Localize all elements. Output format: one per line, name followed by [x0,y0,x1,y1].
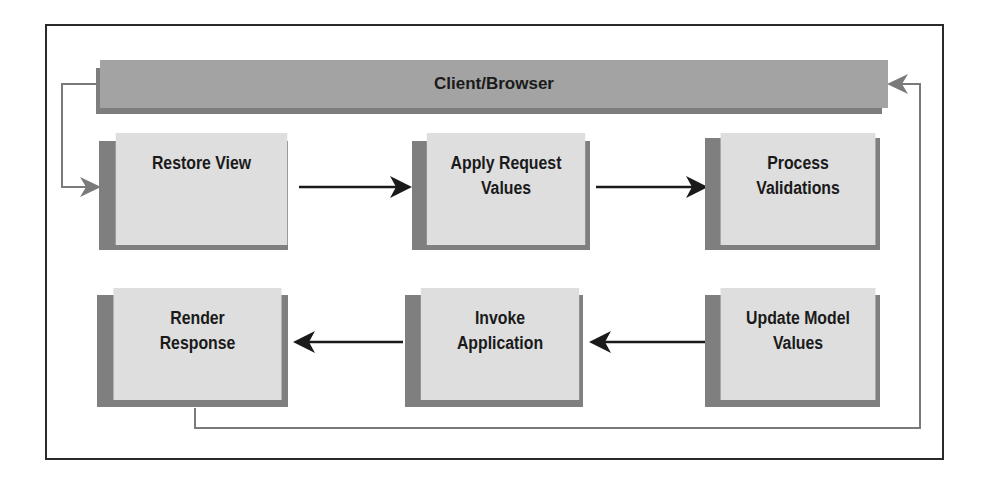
phase-label: Process [767,151,829,176]
phase-label-line2: Validations [756,176,840,201]
phase-label-line2: Response [160,331,236,356]
client-browser-bar: Client/Browser [100,60,888,108]
phase-process-validations: Process Validations [721,133,876,245]
phase-restore-view: Restore View [116,133,288,245]
phase-label: Invoke [475,306,525,331]
phase-label-line2: Application [457,331,543,356]
phase-label: Restore View [152,151,251,176]
phase-apply-request-values: Apply Request Values [427,133,585,245]
phase-label: Render [170,306,225,331]
phase-label-line2: Values [481,176,531,201]
client-to-restore-line [62,84,96,187]
phase-render-response: Render Response [113,288,281,400]
phase-update-model-values: Update Model Values [721,288,876,400]
phase-label: Update Model [746,306,850,331]
phase-label: Apply Request [451,151,562,176]
phase-invoke-application: Invoke Application [421,288,579,400]
phase-label-line2: Values [773,331,823,356]
